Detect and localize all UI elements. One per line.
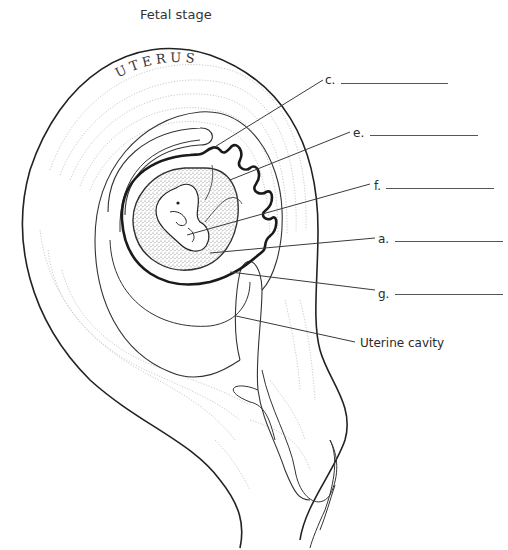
diagram-title: Fetal stage	[140, 8, 212, 22]
uterus-label: UTERUS	[113, 50, 200, 80]
label-g: g.	[378, 287, 389, 301]
leader-line-e	[230, 132, 350, 180]
uterus-outer-wall	[23, 49, 348, 548]
answer-blank-g[interactable]	[395, 294, 503, 295]
answer-blank-f[interactable]	[386, 188, 494, 189]
leader-line-a	[210, 238, 375, 253]
answer-blank-c[interactable]	[341, 83, 448, 84]
leader-line-uterine-cavity	[236, 316, 355, 342]
uterine-cavity-label: Uterine cavity	[360, 336, 444, 350]
leader-line-g	[230, 272, 375, 290]
label-f: f.	[374, 179, 381, 193]
label-c: c.	[325, 73, 335, 87]
answer-blank-e[interactable]	[370, 135, 478, 136]
answer-blank-a[interactable]	[395, 241, 503, 242]
uterus-fetal-stage-diagram: UTERUS Fetal stage c.e.f.a.g. Uterine ca…	[0, 0, 508, 550]
label-e: e.	[353, 126, 364, 140]
label-a: a.	[378, 232, 389, 246]
